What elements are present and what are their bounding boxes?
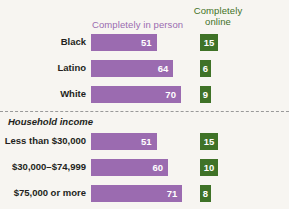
- section-title-household-income: Household income: [8, 116, 93, 127]
- bar-in-person: 51: [91, 34, 157, 51]
- legend-completely-online: Completely online: [190, 6, 246, 27]
- legend-completely-in-person: Completely in person: [92, 19, 183, 30]
- row-label: White: [60, 88, 86, 99]
- legend-completely-online-line1: Completely: [190, 6, 246, 17]
- bar-value-online: 10: [200, 162, 218, 173]
- chart-container: Completely in person Completely online B…: [0, 0, 289, 209]
- table-row: $75,000 or more 71 8: [0, 185, 289, 202]
- bar-value-in-person: 64: [158, 63, 169, 74]
- bar-in-person: 60: [91, 159, 168, 176]
- row-label: $30,000–$74,999: [12, 161, 86, 172]
- bar-in-person: 64: [91, 60, 173, 77]
- row-label: Less than $30,000: [5, 135, 86, 146]
- bar-online: 6: [200, 60, 211, 77]
- bar-in-person: 51: [91, 133, 157, 150]
- bar-value-online: 8: [200, 188, 211, 199]
- bar-value-in-person: 71: [167, 188, 178, 199]
- bar-value-online: 15: [200, 37, 218, 48]
- bar-value-online: 6: [200, 63, 211, 74]
- table-row: White 70 9: [0, 86, 289, 103]
- bar-value-in-person: 51: [141, 37, 152, 48]
- bar-online: 8: [200, 185, 211, 202]
- section-divider: [0, 111, 289, 112]
- bar-in-person: 71: [91, 185, 182, 202]
- row-label: $75,000 or more: [14, 187, 86, 198]
- row-label: Latino: [58, 62, 87, 73]
- legend-completely-online-line2: online: [190, 17, 246, 28]
- bar-online: 9: [200, 86, 211, 103]
- bar-online: 15: [200, 133, 218, 150]
- row-label: Black: [61, 36, 86, 47]
- bar-in-person: 70: [91, 86, 181, 103]
- bar-value-in-person: 60: [153, 162, 164, 173]
- bar-value-in-person: 51: [141, 136, 152, 147]
- bar-online: 10: [200, 159, 218, 176]
- bar-value-online: 9: [200, 89, 211, 100]
- bar-value-in-person: 70: [165, 89, 176, 100]
- table-row: Less than $30,000 51 15: [0, 133, 289, 150]
- bar-value-online: 15: [200, 136, 218, 147]
- table-row: Black 51 15: [0, 34, 289, 51]
- table-row: $30,000–$74,999 60 10: [0, 159, 289, 176]
- table-row: Latino 64 6: [0, 60, 289, 77]
- bar-online: 15: [200, 34, 218, 51]
